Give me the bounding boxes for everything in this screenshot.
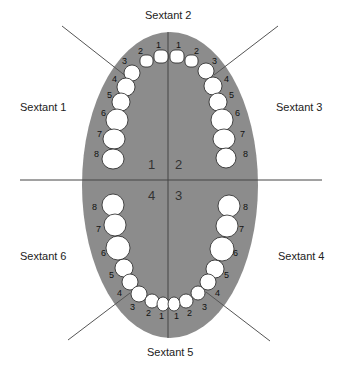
- svg-text:1: 1: [159, 311, 164, 321]
- svg-text:2: 2: [187, 308, 192, 318]
- sextant-divider-upper-right: [214, 26, 278, 75]
- svg-text:7: 7: [97, 129, 102, 139]
- svg-text:4: 4: [117, 288, 122, 298]
- svg-text:7: 7: [96, 224, 101, 234]
- quadrant-3-label: 3: [175, 188, 182, 203]
- svg-text:8: 8: [92, 202, 97, 212]
- dental-sextant-diagram: 1 2 4 3 1 2 3 4 5 6 7 8 1 2 3 4 5 6 7 8 …: [0, 0, 339, 371]
- svg-text:1: 1: [156, 40, 161, 50]
- svg-text:6: 6: [233, 248, 238, 258]
- sextant-divider-lower-left: [68, 293, 130, 340]
- svg-text:2: 2: [138, 46, 143, 56]
- svg-text:1: 1: [174, 311, 179, 321]
- dental-arch-oval: [82, 32, 258, 338]
- svg-text:3: 3: [202, 302, 207, 312]
- svg-text:5: 5: [229, 90, 234, 100]
- svg-text:3: 3: [212, 56, 217, 66]
- svg-text:2: 2: [194, 46, 199, 56]
- sextant-6-label: Sextant 6: [20, 250, 66, 262]
- sextant-3-label: Sextant 3: [276, 101, 322, 113]
- svg-text:4: 4: [224, 74, 229, 84]
- quadrant-1-label: 1: [148, 157, 155, 172]
- svg-text:4: 4: [112, 74, 117, 84]
- svg-text:6: 6: [235, 108, 240, 118]
- quadrant-4-label: 4: [148, 188, 155, 203]
- svg-text:5: 5: [224, 270, 229, 280]
- svg-text:2: 2: [146, 308, 151, 318]
- svg-text:5: 5: [109, 270, 114, 280]
- sextant-2-label: Sextant 2: [145, 9, 191, 21]
- sextant-5-label: Sextant 5: [147, 346, 193, 358]
- svg-text:3: 3: [122, 56, 127, 66]
- svg-text:6: 6: [101, 108, 106, 118]
- svg-text:8: 8: [94, 149, 99, 159]
- svg-text:4: 4: [215, 288, 220, 298]
- sextant-divider-lower-right: [206, 292, 270, 341]
- svg-text:1: 1: [176, 40, 181, 50]
- sextant-divider-upper-left: [62, 26, 127, 77]
- svg-text:3: 3: [130, 302, 135, 312]
- quadrant-2-label: 2: [175, 157, 182, 172]
- sextant-4-label: Sextant 4: [278, 250, 324, 262]
- svg-text:5: 5: [107, 90, 112, 100]
- svg-text:7: 7: [240, 129, 245, 139]
- sextant-1-label: Sextant 1: [20, 101, 66, 113]
- svg-text:8: 8: [243, 202, 248, 212]
- svg-text:8: 8: [243, 149, 248, 159]
- svg-text:6: 6: [101, 248, 106, 258]
- svg-text:7: 7: [239, 224, 244, 234]
